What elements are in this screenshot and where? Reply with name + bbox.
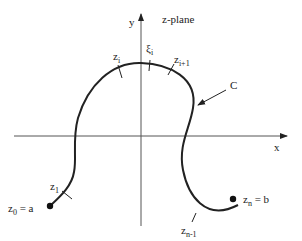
curve-label-arrow [198,90,226,105]
plane-title: z-plane [162,13,194,25]
label-start: z0 = a [8,202,34,217]
start-point-a [47,203,53,209]
tick-z1 [62,191,72,199]
end-point-b [230,196,236,202]
label-zn1: zn-1 [181,224,197,239]
label-zi: zi [113,50,121,65]
label-zi1: zi+1 [174,53,190,68]
z-plane-diagram: z-plane y x C zi ξi zi+1 z1 zn-1 z0 = a … [0,0,302,241]
curve-label: C [230,79,237,91]
y-axis-label: y [129,16,135,28]
diagram-canvas: z-plane y x C zi ξi zi+1 z1 zn-1 z0 = a … [0,0,302,241]
tick-xi [149,60,150,71]
label-end: zn = b [243,193,270,208]
tick-zn1 [192,213,196,222]
label-xi: ξi [146,42,154,57]
label-z1: z1 [50,180,59,195]
x-axis-label: x [274,141,280,153]
contour-curve [51,63,238,210]
